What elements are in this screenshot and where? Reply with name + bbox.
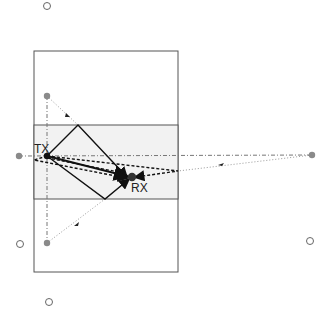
rx-node — [128, 173, 136, 181]
multipath-diagram: TX RX — [0, 0, 329, 321]
hollow-marker-top — [44, 3, 51, 10]
hollow-marker-bottom — [46, 299, 53, 306]
image-source-top — [44, 93, 50, 99]
hollow-marker-right — [307, 238, 314, 245]
image-source-right — [309, 152, 315, 158]
image-line-right — [178, 155, 312, 171]
image-line-right-arrow — [218, 163, 224, 166]
image-source-left — [16, 153, 22, 159]
rx-label: RX — [131, 181, 148, 195]
tx-label: TX — [34, 142, 49, 156]
image-source-bottom — [44, 240, 50, 246]
hollow-marker-left — [17, 241, 24, 248]
